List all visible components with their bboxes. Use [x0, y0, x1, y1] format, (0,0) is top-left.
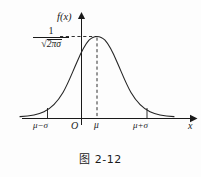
x-axis-label: x [188, 121, 192, 131]
square-root-icon: √2πσ [40, 39, 62, 50]
plot-svg [0, 0, 201, 145]
figure-caption: 图 2-12 [0, 150, 201, 166]
y-axis-peak-value-label: 1 √2πσ [24, 26, 78, 50]
x-tick-label-mu-plus-sigma: μ+σ [133, 121, 148, 130]
normal-distribution-plot: f(x) x O μ−σ μ μ+σ 1 √2πσ [0, 0, 201, 145]
radicand: 2πσ [47, 39, 62, 50]
x-tick-label-mu-minus-sigma: μ−σ [33, 121, 48, 130]
fraction-denominator: √2πσ [24, 38, 78, 50]
y-axis-arrowhead [78, 12, 85, 19]
origin-label: O [71, 121, 78, 131]
x-tick-label-mu: μ [94, 121, 99, 131]
y-axis-label: f(x) [57, 12, 72, 23]
fraction-numerator: 1 [24, 26, 78, 37]
figure-container: f(x) x O μ−σ μ μ+σ 1 √2πσ 图 2-12 [0, 0, 201, 177]
